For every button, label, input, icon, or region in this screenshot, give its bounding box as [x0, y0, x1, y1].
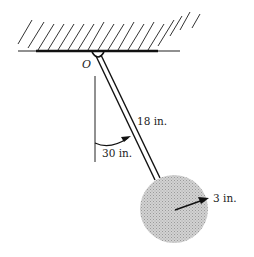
angle-label: 30 in. [102, 147, 132, 159]
rod-length-label: 18 in. [137, 115, 167, 127]
disc-radius-label: 3 in. [213, 192, 236, 204]
pivot-label: O [82, 58, 91, 71]
pendulum-disc [140, 175, 208, 243]
pendulum-diagram: O 18 in. 30 in. 3 in. [0, 0, 254, 257]
ceiling-hatching [18, 12, 200, 50]
